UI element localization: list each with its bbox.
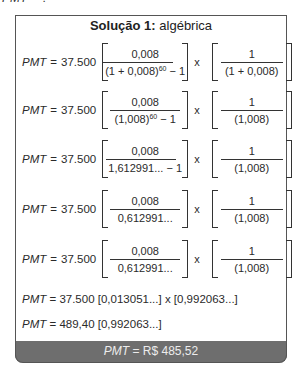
pmt-label: PMT xyxy=(22,293,46,305)
denominator: 1,612991... − 1 xyxy=(106,160,184,174)
denominator: (1,008) xyxy=(232,111,271,125)
bracket-left-factor: 0,008 0,612991... xyxy=(102,190,188,228)
bracket-left-factor: 0,008 (1 + 0,008)60 − 1 xyxy=(102,43,188,81)
fraction: 1 (1,008) xyxy=(221,245,283,274)
fraction: 0,008 1,612991... − 1 xyxy=(106,145,184,174)
previous-line-cut: PMT = ? xyxy=(2,0,48,5)
solution-title-rest: algébrica xyxy=(156,18,212,33)
bracket-left-factor: 0,008 0,612991... xyxy=(102,240,188,278)
numerator: 1 xyxy=(247,195,257,209)
pmt-label: PMT xyxy=(22,318,46,330)
denominator: (1,008) xyxy=(232,260,271,274)
bracket-right-factor: 1 (1,008) xyxy=(212,240,292,278)
line-6-text: = 37.500 [0,013051...] x [0,992063...] xyxy=(46,293,238,305)
numerator: 1 xyxy=(247,245,257,259)
numerator: 0,008 xyxy=(129,48,161,62)
formula-row-5: PMT=37.500 0,008 0,612991... x 1 (1,008) xyxy=(22,239,292,279)
formula-line-6: PMT = 37.500 [0,013051...] x [0,992063..… xyxy=(22,293,238,305)
pmt-label: PMT xyxy=(2,0,27,5)
bracket-right-factor: 1 (1 + 0,008) xyxy=(212,43,292,81)
line-7-text: = 489,40 [0,992063...] xyxy=(46,318,161,330)
numerator: 1 xyxy=(247,96,257,110)
formula-row-2: PMT=37.500 0,008 (1,008)60 − 1 x 1 (1,00… xyxy=(22,90,292,130)
denominator: (1,008) xyxy=(232,160,271,174)
times-sign: x xyxy=(194,203,200,215)
numerator: 1 xyxy=(247,145,257,159)
numerator: 0,008 xyxy=(129,145,161,159)
denominator: (1 + 0,008)60 − 1 xyxy=(103,63,187,77)
formula-lhs: PMT=37.500 xyxy=(22,56,96,68)
numerator: 0,008 xyxy=(129,195,161,209)
pmt-label: PMT xyxy=(104,344,129,358)
times-sign: x xyxy=(194,153,200,165)
formula-row-4: PMT=37.500 0,008 0,612991... x 1 (1,008) xyxy=(22,189,292,229)
formula-lhs: PMT=37.500 xyxy=(22,153,96,165)
denominator: 0,612991... xyxy=(116,210,175,224)
times-sign: x xyxy=(194,253,200,265)
fraction: 1 (1 + 0,008) xyxy=(221,48,283,77)
solution-box: Solução 1: algébrica PMT=37.500 0,008 (1… xyxy=(15,15,287,363)
fraction: 0,008 0,612991... xyxy=(110,245,180,274)
formula-lhs: PMT=37.500 xyxy=(22,253,96,265)
result-footer: PMT = R$ 485,52 xyxy=(15,341,287,363)
times-sign: x xyxy=(194,104,200,116)
fraction: 0,008 (1,008)60 − 1 xyxy=(110,96,180,125)
denominator: (1,008) xyxy=(232,210,271,224)
fraction: 1 (1,008) xyxy=(221,195,283,224)
formula-row-3: PMT=37.500 0,008 1,612991... − 1 x 1 (1,… xyxy=(22,139,292,179)
numerator: 0,008 xyxy=(129,245,161,259)
solution-title: Solução 1: algébrica xyxy=(16,18,286,33)
formula-lhs: PMT=37.500 xyxy=(22,203,96,215)
fraction: 0,008 (1 + 0,008)60 − 1 xyxy=(103,48,187,77)
fraction: 0,008 0,612991... xyxy=(110,195,180,224)
bracket-right-factor: 1 (1,008) xyxy=(212,140,292,178)
times-sign: x xyxy=(194,56,200,68)
denominator: (1 + 0,008) xyxy=(223,63,281,77)
result-value: = R$ 485,52 xyxy=(129,344,198,358)
numerator: 0,008 xyxy=(129,96,161,110)
formula-row-1: PMT=37.500 0,008 (1 + 0,008)60 − 1 x 1 (… xyxy=(22,42,292,82)
previous-line-text: = ? xyxy=(27,0,47,5)
bracket-right-factor: 1 (1,008) xyxy=(212,190,292,228)
denominator: (1,008)60 − 1 xyxy=(113,111,178,125)
formula-line-7: PMT = 489,40 [0,992063...] xyxy=(22,318,162,330)
solution-title-bold: Solução 1: xyxy=(90,18,156,33)
bracket-left-factor: 0,008 1,612991... − 1 xyxy=(102,140,188,178)
numerator: 1 xyxy=(247,48,257,62)
bracket-right-factor: 1 (1,008) xyxy=(212,91,292,129)
fraction: 1 (1,008) xyxy=(221,96,283,125)
fraction: 1 (1,008) xyxy=(221,145,283,174)
bracket-left-factor: 0,008 (1,008)60 − 1 xyxy=(102,91,188,129)
denominator: 0,612991... xyxy=(116,260,175,274)
formula-lhs: PMT=37.500 xyxy=(22,104,96,116)
